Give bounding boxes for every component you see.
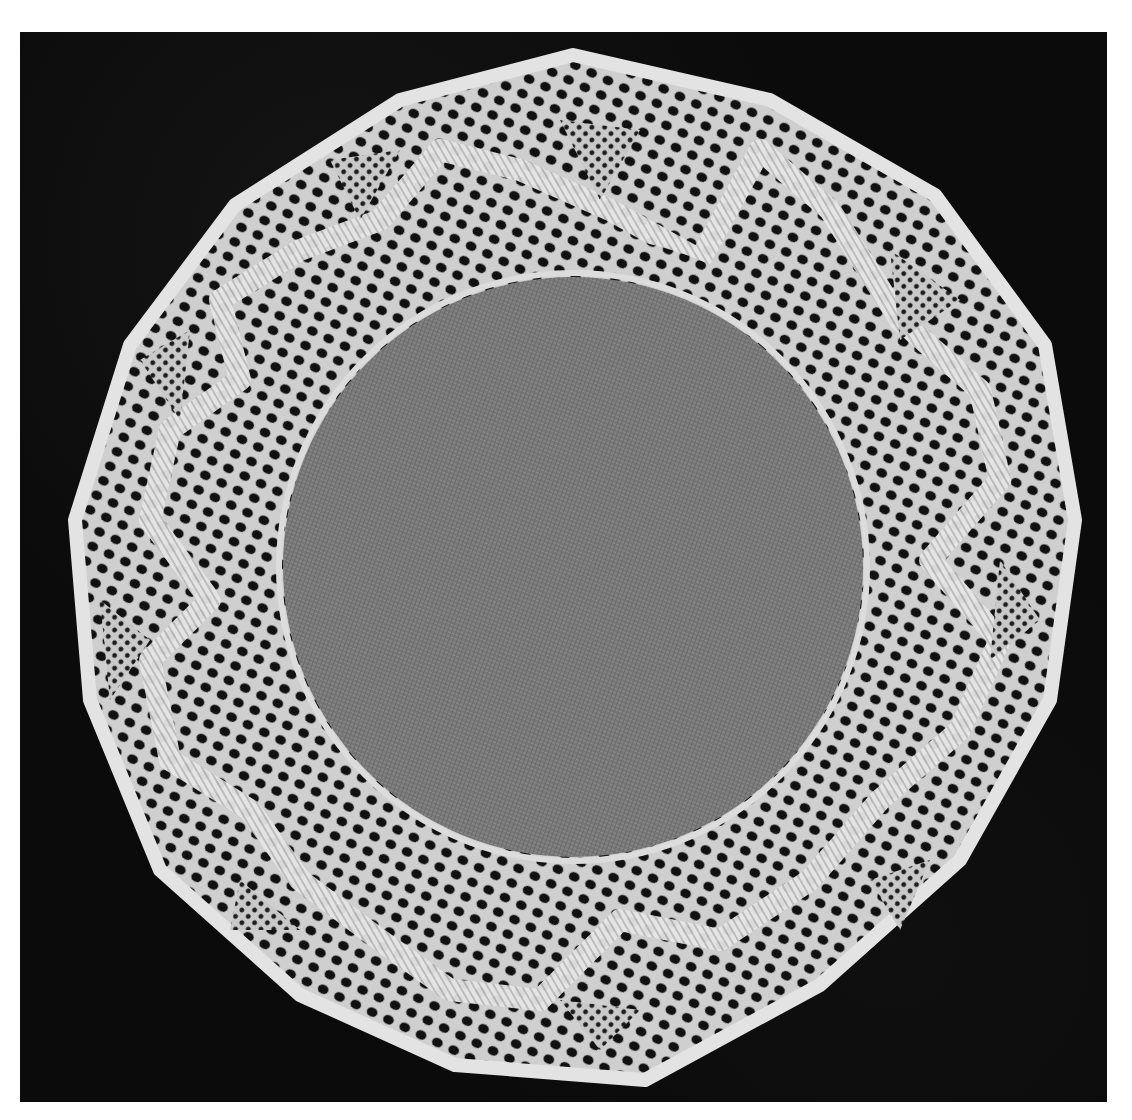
lace-doily-photograph — [20, 32, 1107, 1102]
doily-illustration — [20, 32, 1107, 1102]
linen-center — [283, 277, 863, 857]
